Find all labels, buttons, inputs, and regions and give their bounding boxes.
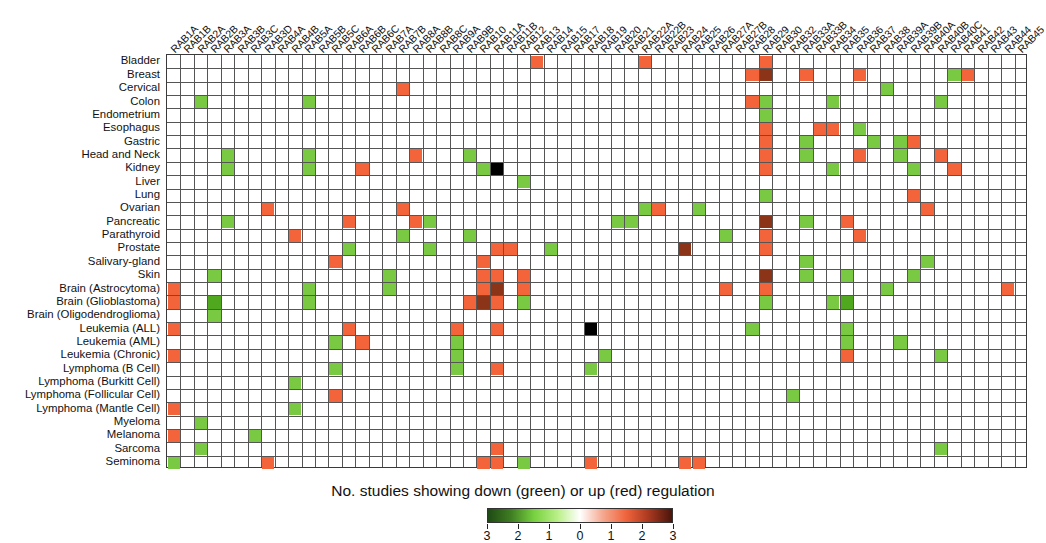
heatmap-cell[interactable] <box>760 216 772 228</box>
heatmap-cell[interactable] <box>908 163 920 175</box>
heatmap-cell[interactable] <box>289 403 301 415</box>
heatmap-cell[interactable] <box>491 270 503 282</box>
heatmap-cell[interactable] <box>329 363 341 375</box>
heatmap-cell[interactable] <box>746 96 758 108</box>
heatmap-cell[interactable] <box>410 216 422 228</box>
heatmap-cell[interactable] <box>477 283 489 295</box>
heatmap-cell[interactable] <box>451 363 463 375</box>
heatmap-cell[interactable] <box>208 270 220 282</box>
heatmap-cell[interactable] <box>612 216 624 228</box>
heatmap-cell[interactable] <box>168 457 180 469</box>
heatmap-cell[interactable] <box>397 230 409 242</box>
heatmap-cell[interactable] <box>585 457 597 469</box>
heatmap-cell[interactable] <box>329 256 341 268</box>
heatmap-cell[interactable] <box>383 283 395 295</box>
heatmap-cell[interactable] <box>841 350 853 362</box>
heatmap-cell[interactable] <box>935 96 947 108</box>
heatmap-cell[interactable] <box>303 296 315 308</box>
heatmap-cell[interactable] <box>720 230 732 242</box>
heatmap-cell[interactable] <box>545 243 557 255</box>
heatmap-cell[interactable] <box>262 457 274 469</box>
heatmap-cell[interactable] <box>168 403 180 415</box>
heatmap-cell[interactable] <box>841 216 853 228</box>
heatmap-cell[interactable] <box>491 163 503 175</box>
heatmap-cell[interactable] <box>760 96 772 108</box>
heatmap-cell[interactable] <box>827 96 839 108</box>
heatmap-cell[interactable] <box>249 430 261 442</box>
heatmap-cell[interactable] <box>289 230 301 242</box>
heatmap-cell[interactable] <box>760 163 772 175</box>
heatmap-cell[interactable] <box>585 363 597 375</box>
heatmap-cell[interactable] <box>208 310 220 322</box>
heatmap-cell[interactable] <box>599 350 611 362</box>
heatmap-cell[interactable] <box>760 56 772 68</box>
heatmap-cell[interactable] <box>679 243 691 255</box>
heatmap-cell[interactable] <box>451 336 463 348</box>
heatmap-cell[interactable] <box>679 457 691 469</box>
heatmap-cell[interactable] <box>168 323 180 335</box>
heatmap-cell[interactable] <box>518 457 530 469</box>
heatmap-cell[interactable] <box>841 296 853 308</box>
heatmap-cell[interactable] <box>477 270 489 282</box>
heatmap-cell[interactable] <box>800 270 812 282</box>
heatmap-cell[interactable] <box>518 296 530 308</box>
heatmap-cell[interactable] <box>921 256 933 268</box>
heatmap-cell[interactable] <box>195 417 207 429</box>
heatmap-cell[interactable] <box>948 69 960 81</box>
heatmap-cell[interactable] <box>908 190 920 202</box>
heatmap-cell[interactable] <box>451 350 463 362</box>
heatmap-cell[interactable] <box>881 83 893 95</box>
heatmap-cell[interactable] <box>841 270 853 282</box>
heatmap-cell[interactable] <box>1002 283 1014 295</box>
heatmap-cell[interactable] <box>841 336 853 348</box>
heatmap-cell[interactable] <box>760 123 772 135</box>
heatmap-cell[interactable] <box>935 443 947 455</box>
heatmap-cell[interactable] <box>908 136 920 148</box>
heatmap-cell[interactable] <box>518 176 530 188</box>
heatmap-cell[interactable] <box>787 390 799 402</box>
heatmap-cell[interactable] <box>491 243 503 255</box>
heatmap-cell[interactable] <box>168 430 180 442</box>
heatmap-cell[interactable] <box>410 149 422 161</box>
heatmap-cell[interactable] <box>800 149 812 161</box>
heatmap-cell[interactable] <box>168 350 180 362</box>
heatmap-cell[interactable] <box>491 443 503 455</box>
heatmap-cell[interactable] <box>800 69 812 81</box>
heatmap-cell[interactable] <box>356 163 368 175</box>
heatmap-cell[interactable] <box>383 270 395 282</box>
heatmap-cell[interactable] <box>921 203 933 215</box>
heatmap-cell[interactable] <box>639 203 651 215</box>
heatmap-cell[interactable] <box>827 296 839 308</box>
heatmap-cell[interactable] <box>195 443 207 455</box>
heatmap-cell[interactable] <box>908 270 920 282</box>
heatmap-cell[interactable] <box>894 136 906 148</box>
heatmap-cell[interactable] <box>652 203 664 215</box>
heatmap-cell[interactable] <box>935 350 947 362</box>
heatmap-cell[interactable] <box>827 163 839 175</box>
heatmap-cell[interactable] <box>464 149 476 161</box>
heatmap-cell[interactable] <box>868 136 880 148</box>
heatmap-cell[interactable] <box>504 243 516 255</box>
heatmap-cell[interactable] <box>841 323 853 335</box>
heatmap-cell[interactable] <box>262 203 274 215</box>
heatmap-cell[interactable] <box>329 390 341 402</box>
heatmap-cell[interactable] <box>397 203 409 215</box>
heatmap-cell[interactable] <box>760 230 772 242</box>
heatmap-cell[interactable] <box>518 283 530 295</box>
heatmap-cell[interactable] <box>491 363 503 375</box>
heatmap-cell[interactable] <box>585 323 597 335</box>
heatmap-cell[interactable] <box>343 216 355 228</box>
heatmap-cell[interactable] <box>800 216 812 228</box>
heatmap-cell[interactable] <box>491 283 503 295</box>
heatmap-cell[interactable] <box>894 149 906 161</box>
heatmap-cell[interactable] <box>760 136 772 148</box>
heatmap-cell[interactable] <box>854 123 866 135</box>
heatmap-cell[interactable] <box>491 323 503 335</box>
heatmap-cell[interactable] <box>303 149 315 161</box>
heatmap-cell[interactable] <box>303 163 315 175</box>
heatmap-cell[interactable] <box>518 270 530 282</box>
heatmap-cell[interactable] <box>356 336 368 348</box>
heatmap-cell[interactable] <box>195 96 207 108</box>
heatmap-cell[interactable] <box>746 323 758 335</box>
heatmap-cell[interactable] <box>208 296 220 308</box>
